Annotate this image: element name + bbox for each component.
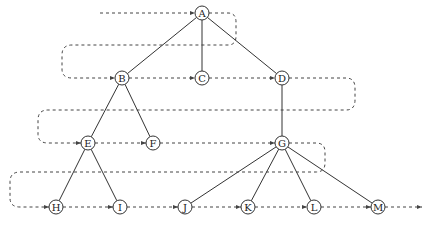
node-H: H <box>49 200 63 214</box>
node-label: D <box>278 73 286 84</box>
arrowhead-icon <box>190 76 195 80</box>
node-K: K <box>241 200 255 214</box>
edge-E-I <box>91 149 117 200</box>
arrowhead-icon <box>76 141 81 145</box>
edge-G-J <box>191 147 276 203</box>
edge-G-M <box>288 147 372 203</box>
node-label: B <box>118 73 125 84</box>
node-C: C <box>195 71 209 85</box>
node-A: A <box>195 6 209 20</box>
node-L: L <box>307 200 321 214</box>
node-label: L <box>311 202 318 213</box>
arrowhead-icon <box>270 141 275 145</box>
node-label: E <box>84 138 91 149</box>
tree-traversal-diagram: ABCDEFGHIJKLM <box>0 0 434 226</box>
node-label: J <box>182 202 187 213</box>
node-G: G <box>275 136 289 150</box>
arrowhead-icon <box>366 205 371 209</box>
node-J: J <box>178 200 192 214</box>
arrowhead-icon <box>417 205 422 209</box>
node-I: I <box>113 200 127 214</box>
arrowhead-icon <box>173 205 178 209</box>
arrowhead-icon <box>141 141 146 145</box>
edge-G-K <box>251 149 278 201</box>
node-B: B <box>115 71 129 85</box>
traversal-path <box>10 13 422 207</box>
node-label: A <box>197 8 206 19</box>
arrowhead-icon <box>44 205 49 209</box>
node-label: F <box>150 138 157 149</box>
node-label: K <box>244 202 252 213</box>
node-label: G <box>278 138 286 149</box>
node-E: E <box>81 136 95 150</box>
level-order-path <box>10 13 422 207</box>
arrowhead-icon <box>302 205 307 209</box>
edge-G-L <box>285 149 311 200</box>
node-F: F <box>146 136 160 150</box>
arrowhead-icon <box>108 205 113 209</box>
node-label: I <box>118 202 122 213</box>
arrowhead-icon <box>190 11 195 15</box>
node-label: H <box>52 202 61 213</box>
arrowhead-icon <box>110 76 115 80</box>
edge-A-D <box>207 17 276 73</box>
arrowhead-icon <box>270 76 275 80</box>
node-M: M <box>371 200 385 214</box>
diagram-svg: ABCDEFGHIJKLM <box>0 0 434 226</box>
node-label: M <box>373 202 383 213</box>
node-label: C <box>198 73 206 84</box>
arrowhead-icon <box>236 205 241 209</box>
node-D: D <box>275 71 289 85</box>
edge-E-H <box>59 149 85 200</box>
